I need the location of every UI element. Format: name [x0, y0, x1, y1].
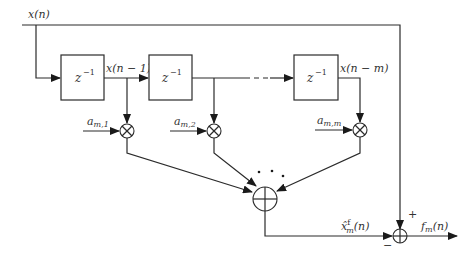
lattice-predictor-diagram: x(n) z −1 x(n − 1) z −1 z −1 x(n − m) am…: [0, 0, 473, 259]
wire-mult1-sum: [127, 138, 252, 192]
delay-block-2: z −1: [149, 55, 192, 100]
tap-m: [338, 78, 360, 122]
summation-icon: [253, 187, 277, 211]
delay-block-3-z: z: [306, 71, 314, 85]
coef-2-label: am,2: [174, 115, 196, 129]
delay-block-2-z: z: [161, 71, 169, 85]
delay-block-3-exp: −1: [315, 68, 327, 77]
multiplier-m-icon: [353, 123, 367, 137]
wire-sum-adder: [265, 211, 392, 236]
delay-m-output-label: x(n − m): [340, 62, 389, 75]
delay-block-1-z: z: [74, 71, 82, 85]
plus-sign: +: [408, 208, 417, 221]
delay-block-1: z −1: [61, 55, 104, 100]
output-label: fm(n): [420, 220, 448, 234]
delay-block-1-exp: −1: [83, 68, 95, 77]
coef-m-label: am,m: [317, 114, 342, 128]
wire-multm-sum: [277, 137, 360, 191]
input-signal-label: x(n): [28, 8, 50, 21]
final-adder-icon: [393, 229, 407, 243]
prediction-label: x̂fm(n): [341, 218, 369, 235]
delay-1-output-label: x(n − 1): [106, 62, 151, 75]
minus-sign: −: [383, 239, 392, 252]
ellipsis-dots: [258, 170, 285, 178]
multiplier-2-icon: [207, 124, 221, 138]
delay-block-2-exp: −1: [170, 68, 182, 77]
delay-block-3: z −1: [294, 55, 338, 100]
multiplier-1-icon: [120, 124, 134, 138]
wire-mult2-sum: [214, 138, 256, 186]
coef-1-label: am,1: [87, 115, 109, 129]
